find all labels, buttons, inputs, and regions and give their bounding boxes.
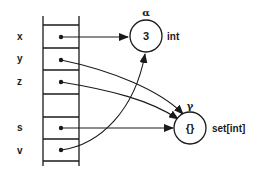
- node-gamma: {} γ set[int]: [174, 100, 245, 144]
- var-label-y: y: [17, 53, 23, 64]
- node-gamma-type: set[int]: [212, 123, 245, 134]
- node-gamma-value: {}: [186, 122, 195, 134]
- node-gamma-label: γ: [187, 100, 194, 111]
- diagram-canvas: x y z s v 3 α int {} γ set[int]: [0, 0, 258, 173]
- var-label-z: z: [17, 76, 22, 87]
- node-alpha-type: int: [167, 31, 180, 42]
- var-label-s: s: [17, 122, 23, 133]
- arrow-v-to-alpha: [61, 54, 145, 150]
- node-alpha-value: 3: [143, 30, 149, 42]
- var-label-v: v: [17, 145, 23, 156]
- var-label-x: x: [17, 31, 23, 42]
- node-alpha-label: α: [142, 7, 150, 18]
- node-alpha: 3 α int: [130, 7, 180, 52]
